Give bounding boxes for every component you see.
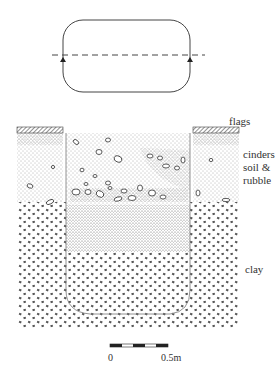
section-arrow-icon xyxy=(187,57,193,62)
plan-view xyxy=(52,20,205,92)
label-flags: flags xyxy=(229,115,250,127)
section-drawing xyxy=(0,0,280,378)
scale-start-label: 0 xyxy=(108,352,113,364)
scale-bar xyxy=(110,344,168,347)
label-clay: clay xyxy=(245,263,263,275)
flags-layer-left xyxy=(17,127,63,133)
flags-layer-right xyxy=(193,127,239,133)
section-view xyxy=(17,127,239,328)
section-arrow-icon xyxy=(60,57,66,62)
scale-end-label: 0.5m xyxy=(161,352,181,364)
label-cinders: cinders xyxy=(243,148,275,160)
label-soil: soil & xyxy=(243,161,270,173)
label-rubble: rubble xyxy=(243,174,271,186)
